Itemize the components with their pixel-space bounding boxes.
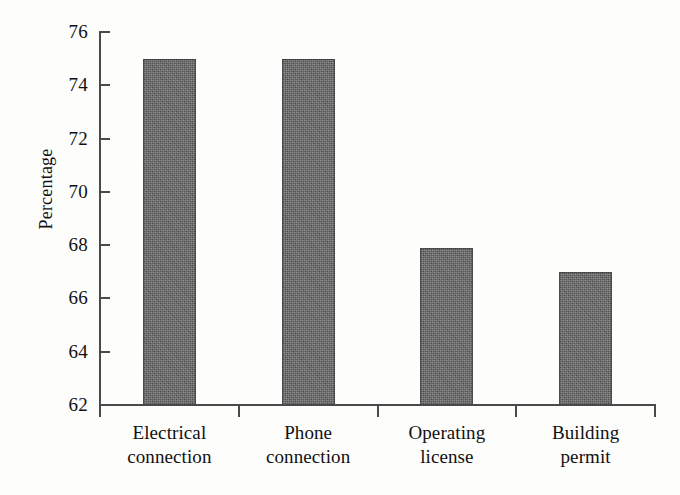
x-axis-tick — [377, 406, 379, 417]
y-axis-tick-label: 70 — [38, 182, 88, 201]
y-axis-tick — [101, 138, 110, 140]
x-axis-category-label-line: Building — [516, 421, 655, 445]
y-axis-tick-label: 66 — [38, 288, 88, 307]
x-axis-category-label-line: permit — [516, 445, 655, 469]
bar — [282, 59, 335, 405]
y-axis-tick — [101, 297, 110, 299]
y-axis-tick-label: 68 — [38, 235, 88, 254]
bar-chart-figure: Percentage 6264666870727476 Electricalco… — [0, 0, 680, 495]
y-axis-tick — [101, 191, 110, 193]
x-axis-category-label: Buildingpermit — [516, 421, 655, 469]
x-axis-tick — [515, 406, 517, 417]
y-axis-tick-label-text: 74 — [44, 75, 88, 94]
y-axis-tick-label-text: 70 — [44, 182, 88, 201]
bar — [420, 248, 473, 405]
x-axis-category-label: Phoneconnection — [239, 421, 378, 469]
x-axis-category-label-line: Phone — [239, 421, 378, 445]
x-axis-category-label: Operatinglicense — [378, 421, 517, 469]
x-axis-tick — [238, 406, 240, 417]
y-axis-tick-label-text: 68 — [44, 235, 88, 254]
x-axis-category-label: Electricalconnection — [100, 421, 239, 469]
y-axis-tick-label-text: 72 — [44, 129, 88, 148]
x-axis-category-label-line: Electrical — [100, 421, 239, 445]
x-axis-category-label-line: license — [378, 445, 517, 469]
y-axis-tick-label-text: 64 — [44, 342, 88, 361]
y-axis-tick — [101, 351, 110, 353]
bar — [559, 272, 612, 405]
y-axis-tick-label-text: 66 — [44, 288, 88, 307]
y-axis-tick — [101, 404, 110, 406]
y-axis-tick — [101, 31, 110, 33]
y-axis-tick-label-text: 62 — [44, 395, 88, 414]
x-axis-tick — [654, 406, 656, 417]
y-axis-tick-label-text: 76 — [44, 22, 88, 41]
y-axis-tick-label: 76 — [38, 22, 88, 41]
x-axis-category-label-line: Operating — [378, 421, 517, 445]
y-axis-tick-label: 62 — [38, 395, 88, 414]
bar — [143, 59, 196, 405]
x-axis-category-label-line: connection — [239, 445, 378, 469]
x-axis-tick — [99, 406, 101, 417]
y-axis-tick — [101, 244, 110, 246]
y-axis-tick-label: 72 — [38, 129, 88, 148]
y-axis-tick-label: 64 — [38, 342, 88, 361]
y-axis-tick — [101, 84, 110, 86]
y-axis-tick-label: 74 — [38, 75, 88, 94]
x-axis-category-label-line: connection — [100, 445, 239, 469]
